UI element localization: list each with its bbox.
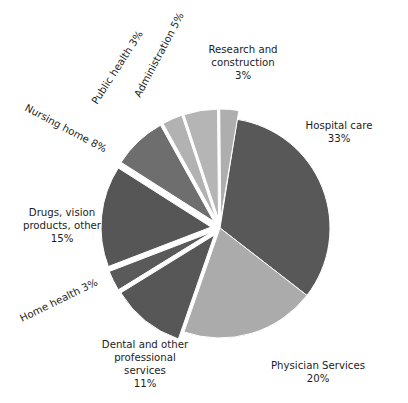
pie-label-nursing-home: Nursing home 8%: [23, 102, 109, 155]
pie-chart-container: Hospital care33%Physician Services20%Den…: [0, 0, 408, 403]
pie-label-physician-services: Physician Services20%: [271, 360, 365, 384]
pie-label-administration: Administration 5%: [132, 11, 186, 99]
pie-label-home-health: Home health 3%: [18, 277, 99, 324]
pie-label-hospital-care: Hospital care33%: [306, 120, 373, 144]
pie-chart: Hospital care33%Physician Services20%Den…: [0, 0, 408, 403]
pie-label-drugs-vision-products-other: Drugs, visionproducts, other15%: [23, 207, 102, 244]
pie-slices-group: [101, 109, 330, 339]
pie-label-dental-and-other-professional-services: Dental and otherprofessionalservices11%: [102, 339, 189, 389]
pie-label-research-and-construction: Research andconstruction3%: [208, 44, 277, 81]
